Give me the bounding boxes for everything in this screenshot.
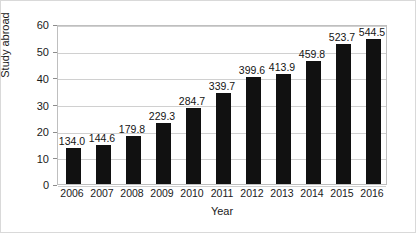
bar: [366, 39, 381, 184]
y-tick-30: 30: [19, 100, 49, 112]
bar: [66, 148, 81, 184]
y-tick-40: 40: [19, 73, 49, 85]
bar: [306, 61, 321, 184]
x-axis-label: Year: [57, 205, 387, 217]
bar: [96, 145, 111, 184]
bar: [276, 74, 291, 184]
bar-value-2008: 179.8: [112, 123, 152, 135]
bar-value-2014: 459.8: [292, 48, 332, 60]
y-tick-50: 50: [19, 46, 49, 58]
y-tick-20: 20: [19, 126, 49, 138]
bar-value-2009: 229.3: [142, 110, 182, 122]
chart-container: Study abroad 60 50 40 30 20 10 0 2006200…: [0, 0, 416, 233]
y-tick-10: 10: [19, 153, 49, 165]
bar: [336, 44, 351, 184]
plot-area: [57, 25, 387, 185]
bar-value-2010: 284.7: [172, 95, 212, 107]
tick-mark: [53, 185, 57, 186]
bar-value-2011: 339.7: [202, 80, 242, 92]
bar: [156, 123, 171, 184]
bar-value-2016: 544.5: [352, 26, 392, 38]
bar: [126, 136, 141, 184]
gridline: [58, 26, 386, 27]
x-tick-2016: 2016: [354, 187, 390, 199]
bar: [216, 93, 231, 184]
bar-value-2013: 413.9: [262, 61, 302, 73]
y-tick-0: 0: [19, 179, 49, 191]
y-tick-60: 60: [19, 19, 49, 31]
bar: [246, 77, 261, 184]
bar: [186, 108, 201, 184]
y-axis-label: Study abroad: [0, 0, 11, 105]
